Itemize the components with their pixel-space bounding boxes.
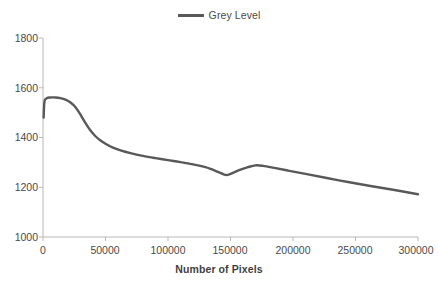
grey-level-line-chart: Grey Level 1800 1600 1400 1200 1000 0 50… — [0, 0, 438, 287]
series-line-grey-level — [44, 97, 418, 194]
y-axis-ticks — [39, 38, 43, 237]
x-axis-ticks — [43, 237, 418, 241]
x-axis-title: Number of Pixels — [0, 263, 438, 275]
plot-svg — [0, 0, 438, 287]
plot-area — [0, 0, 438, 287]
